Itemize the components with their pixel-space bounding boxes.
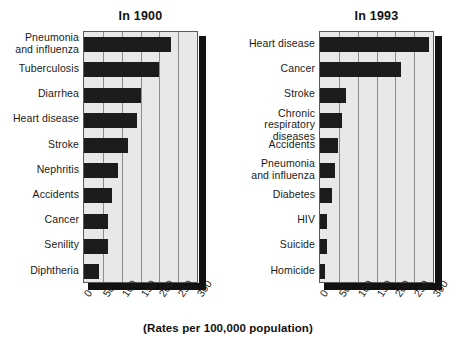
bar — [84, 188, 112, 203]
plot-edge-shadow-1900 — [199, 36, 206, 288]
chart-panel-1900: In 1900 Pneumoniaand influenzaTuberculos… — [0, 0, 228, 346]
plot-area-1993 — [319, 31, 434, 283]
panel-title-1993: In 1993 — [319, 8, 434, 24]
chart-figure: In 1900 Pneumoniaand influenzaTuberculos… — [0, 0, 456, 346]
bar — [84, 62, 159, 77]
bar — [320, 239, 327, 254]
grid-line — [178, 32, 179, 282]
chart-caption: (Rates per 100,000 population) — [0, 322, 456, 334]
category-label: Heart disease — [232, 38, 315, 50]
category-label: Stroke — [2, 139, 79, 151]
category-label: HIV — [232, 214, 315, 226]
chart-panel-1993: In 1993 Heart diseaseCancerStrokeChronic… — [228, 0, 456, 346]
bar — [84, 163, 118, 178]
category-label: Diabetes — [232, 189, 315, 201]
bar — [84, 138, 128, 153]
category-label: Nephritis — [2, 164, 79, 176]
category-label: Chronic respiratorydiseases — [232, 108, 315, 143]
bar — [84, 214, 108, 229]
bar — [84, 239, 108, 254]
category-label: Cancer — [2, 214, 79, 226]
category-label: Suicide — [232, 239, 315, 251]
grid-line — [414, 32, 415, 282]
category-label: Tuberculosis — [2, 63, 79, 75]
category-label: Cancer — [232, 63, 315, 75]
category-label: Pneumoniaand influenza — [232, 158, 315, 181]
plot-area-1900 — [83, 31, 198, 283]
category-label: Accidents — [2, 189, 79, 201]
plot-edge-shadow-1993 — [435, 36, 442, 288]
category-label: Homicide — [232, 265, 315, 277]
bar — [84, 88, 141, 103]
category-label: Stroke — [232, 88, 315, 100]
category-label: Diarrhea — [2, 88, 79, 100]
bar — [320, 138, 338, 153]
bar — [84, 37, 171, 52]
category-label: Accidents — [232, 139, 315, 151]
category-label: Diphtheria — [2, 265, 79, 277]
category-label: Pneumoniaand influenza — [2, 32, 79, 55]
bar — [320, 214, 327, 229]
bar — [320, 188, 332, 203]
bar — [320, 37, 429, 52]
category-label: Heart disease — [2, 113, 79, 125]
bar — [320, 163, 335, 178]
bar — [320, 88, 346, 103]
bar — [320, 264, 325, 279]
category-label: Senility — [2, 239, 79, 251]
bar — [320, 113, 342, 128]
bar — [320, 62, 401, 77]
bar — [84, 113, 137, 128]
panel-title-1900: In 1900 — [83, 8, 198, 24]
